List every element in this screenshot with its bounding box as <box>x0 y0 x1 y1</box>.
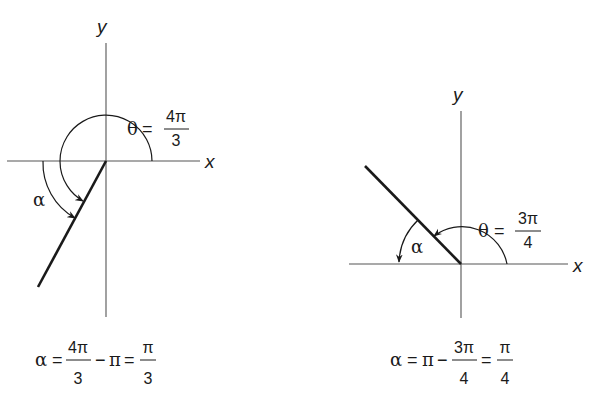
theta-denominator: 3 <box>172 132 181 149</box>
left-alpha-label: α <box>33 189 45 210</box>
formula-alpha: α <box>390 349 402 370</box>
theta-numerator: 4π <box>166 108 186 125</box>
formula-fraction-denominator: 3 <box>74 370 83 387</box>
right-figure: y x α θ = 3π 4 <box>349 84 584 318</box>
formula-equals: = <box>407 350 418 370</box>
right-theta-label: θ = 3π 4 <box>478 210 541 251</box>
formula-fraction-numerator: 4π <box>68 339 88 356</box>
equals-sign: = <box>494 221 505 241</box>
theta-denominator: 4 <box>524 234 533 251</box>
theta-symbol: θ <box>478 220 489 241</box>
left-figure: y x α θ = 4π 3 <box>7 16 216 317</box>
formula-fraction-denominator: 4 <box>501 370 510 387</box>
left-terminal-ray <box>38 161 106 287</box>
theta-symbol: θ <box>127 118 138 139</box>
diagram-canvas: y x α θ = 4π 3 y x α θ = 3π 4 α <box>0 0 608 417</box>
formula-fraction-numerator: 3π <box>454 339 474 356</box>
formula-fraction-denominator: 3 <box>144 370 153 387</box>
right-y-axis-label: y <box>451 84 464 105</box>
formula-equals: = <box>124 350 135 370</box>
formula-fraction-numerator: π <box>142 339 153 356</box>
left-theta-label: θ = 4π 3 <box>127 108 189 149</box>
right-alpha-label: α <box>411 236 423 257</box>
right-formula: α = π − 3π 4 = π 4 <box>390 339 513 387</box>
formula-equals: = <box>52 350 63 370</box>
formula-fraction-denominator: 4 <box>460 370 469 387</box>
formula-alpha: α <box>35 349 47 370</box>
formula-minus: − <box>437 350 448 370</box>
theta-numerator: 3π <box>518 210 538 227</box>
formula-equals: = <box>481 350 492 370</box>
left-x-axis-label: x <box>204 151 216 172</box>
equals-sign: = <box>142 119 153 139</box>
formula-minus: − <box>95 350 106 370</box>
right-x-axis-label: x <box>572 255 584 276</box>
formula-pi: π <box>422 349 434 370</box>
left-formula: α = 4π 3 − π = π 3 <box>35 339 156 387</box>
formula-pi: π <box>109 349 121 370</box>
left-y-axis-label: y <box>95 16 108 37</box>
formula-fraction-numerator: π <box>499 339 510 356</box>
